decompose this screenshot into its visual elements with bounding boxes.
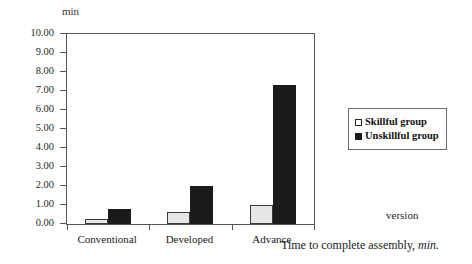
bar (85, 219, 108, 224)
y-axis-tick-label: 3.00 (36, 159, 54, 172)
bars-layer (67, 34, 314, 224)
bar-group (232, 34, 314, 224)
y-axis-tick-mark (60, 204, 66, 205)
bar-group (149, 34, 231, 224)
y-axis-tick-mark (60, 109, 66, 110)
legend-swatch-unskillful (355, 133, 362, 140)
y-axis: 10.009.008.007.006.005.004.003.002.001.0… (0, 33, 66, 225)
y-axis-tick-label: 4.00 (36, 140, 54, 153)
figure-caption: Time to complete assembly, min. (281, 238, 439, 253)
x-axis-tick-mark (67, 225, 68, 230)
caption-main-text: Time to complete assembly, (281, 238, 418, 252)
bar (273, 85, 296, 224)
y-axis-tick-mark (60, 128, 66, 129)
x-axis-tick-mark (232, 225, 233, 230)
legend-swatch-skillful (355, 119, 362, 126)
y-axis-tick-mark (60, 90, 66, 91)
y-axis-tick-label: 0.00 (36, 216, 54, 229)
y-axis-tick-mark (60, 33, 66, 34)
y-axis-tick-label: 7.00 (36, 83, 54, 96)
y-axis-tick-mark (60, 71, 66, 72)
bar (190, 186, 213, 224)
bar (108, 209, 131, 224)
y-axis-tick-mark (60, 52, 66, 53)
x-axis-name-label: version (386, 209, 418, 222)
y-axis-tick-mark (60, 166, 66, 167)
y-axis-tick-mark (60, 185, 66, 186)
x-axis-tick-mark (149, 225, 150, 230)
chart-legend: Skillful groupUnskillful group (348, 108, 447, 150)
bar (250, 205, 273, 224)
y-axis-tick-mark (60, 147, 66, 148)
y-axis-unit-label: min (62, 5, 79, 17)
y-axis-tick-label: 6.00 (36, 102, 54, 115)
legend-item: Unskillful group (355, 130, 439, 142)
y-axis-tick-label: 1.00 (36, 197, 54, 210)
caption-italic-text: min. (418, 238, 439, 252)
bar (167, 212, 190, 224)
legend-label: Unskillful group (365, 130, 439, 142)
y-axis-tick-label: 8.00 (36, 64, 54, 77)
y-axis-tick-label: 9.00 (36, 45, 54, 58)
x-axis: ConventionalDevelopedAdvance (66, 225, 315, 255)
y-axis-tick-mark (60, 223, 66, 224)
y-axis-tick-label: 2.00 (36, 178, 54, 191)
x-axis-tick-mark (314, 225, 315, 230)
bar-group (67, 34, 149, 224)
y-axis-tick-label: 5.00 (36, 121, 54, 134)
legend-label: Skillful group (365, 116, 427, 128)
legend-item: Skillful group (355, 116, 439, 128)
y-axis-tick-label: 10.00 (30, 26, 54, 39)
x-axis-category-label: Developed (148, 232, 230, 246)
x-axis-category-label: Conventional (66, 232, 148, 246)
